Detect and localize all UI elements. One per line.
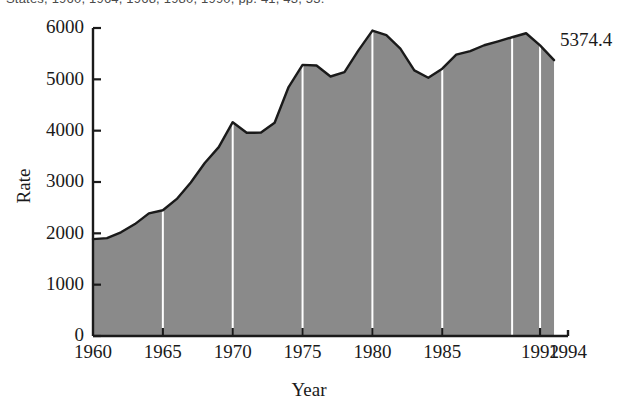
annotation-value-0: 5374.4 [560, 29, 613, 50]
y-tick-label-6000: 6000 [46, 16, 84, 37]
y-tick-label-5000: 5000 [46, 68, 84, 89]
x-tick-label-1985: 1985 [423, 341, 461, 362]
x-tick-label-1960: 1960 [74, 341, 112, 362]
x-axis-title: Year [291, 379, 327, 400]
x-tick-label-1970: 1970 [214, 341, 252, 362]
y-tick-label-2000: 2000 [46, 222, 84, 243]
plot-region [93, 26, 554, 336]
x-tick-label-1965: 1965 [144, 341, 182, 362]
y-tick-labels: 0100020003000400050006000 [46, 16, 84, 345]
x-tick-label-1980: 1980 [353, 341, 391, 362]
annotations: 5374.4 [560, 29, 613, 50]
y-axis-title: Rate [13, 169, 34, 204]
y-tick-label-4000: 4000 [46, 119, 84, 140]
x-tick-labels: 19601965197019751980198519921994 [74, 341, 588, 362]
chart-page: States, 1960, 1964, 1968, 1980, 1990, pp… [0, 0, 618, 407]
area-chart: 0100020003000400050006000 19601965197019… [0, 0, 618, 407]
y-tick-label-1000: 1000 [46, 273, 84, 294]
chart-svg: 0100020003000400050006000 19601965197019… [0, 0, 618, 407]
x-tick-label-1994: 1994 [549, 341, 588, 362]
x-tick-label-1975: 1975 [284, 341, 322, 362]
y-tick-label-3000: 3000 [46, 170, 84, 191]
